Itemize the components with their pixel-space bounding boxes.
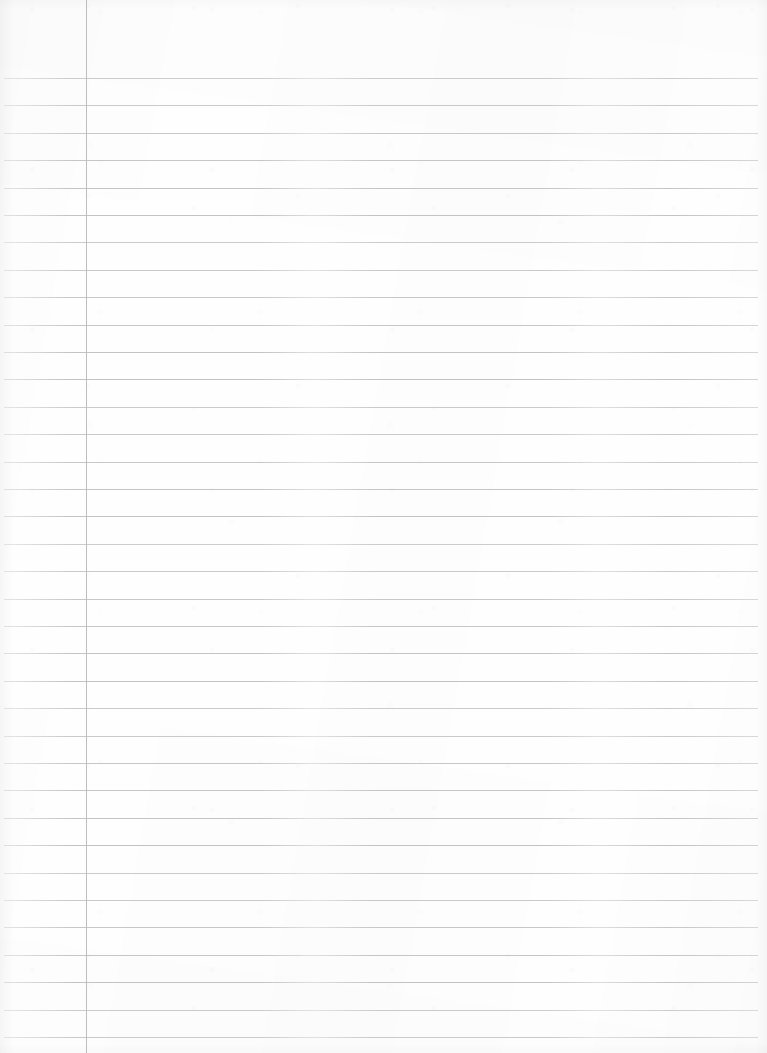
ruled-line: [4, 297, 758, 298]
ruled-line: [4, 325, 758, 326]
notebook-page: [0, 0, 767, 1053]
ruled-line: [4, 160, 758, 161]
ruled-line: [4, 708, 758, 709]
ruled-line: [4, 105, 758, 106]
ruled-line: [4, 379, 758, 380]
left-margin-rule: [86, 0, 87, 1053]
ruled-line: [4, 955, 758, 956]
ruled-line: [4, 763, 758, 764]
ruled-line: [4, 873, 758, 874]
ruled-line: [4, 270, 758, 271]
ruled-line: [4, 242, 758, 243]
ruled-line: [4, 845, 758, 846]
ruled-line: [4, 736, 758, 737]
ruled-line: [4, 133, 758, 134]
ruled-line: [4, 900, 758, 901]
ruled-line: [4, 516, 758, 517]
ruled-line: [4, 489, 758, 490]
writing-area[interactable]: [87, 78, 758, 1053]
ruled-line: [4, 626, 758, 627]
ruled-line: [4, 434, 758, 435]
ruled-line: [4, 927, 758, 928]
ruled-line: [4, 407, 758, 408]
page-edge-shading: [0, 0, 767, 1053]
paper-texture: [0, 0, 767, 1053]
ruled-line: [4, 818, 758, 819]
ruled-line: [4, 1037, 758, 1038]
ruled-line: [4, 352, 758, 353]
ruled-line: [4, 462, 758, 463]
header-area: [0, 0, 767, 78]
ruled-line: [4, 544, 758, 545]
ruled-line: [4, 78, 758, 79]
ruled-line: [4, 653, 758, 654]
ruled-line: [4, 1010, 758, 1011]
ruled-line: [4, 215, 758, 216]
ruled-line: [4, 681, 758, 682]
ruled-line: [4, 599, 758, 600]
ruled-line: [4, 790, 758, 791]
ruled-line: [4, 188, 758, 189]
ruled-line: [4, 571, 758, 572]
ruled-line: [4, 982, 758, 983]
